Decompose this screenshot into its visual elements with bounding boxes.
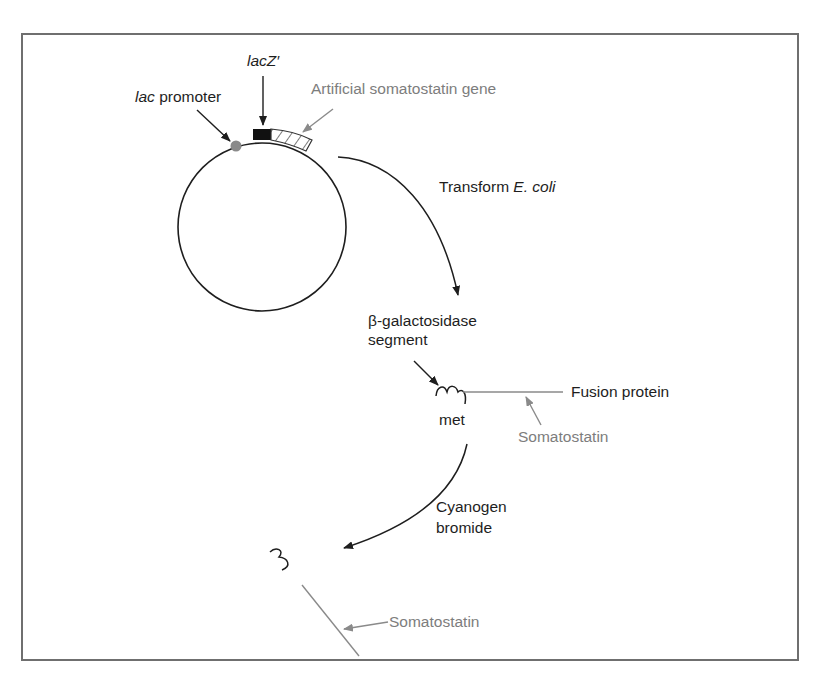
lac-promoter-label: lac promoter [135, 87, 221, 106]
lacz-rest: Z′ [267, 52, 279, 69]
segment-arrow-icon [414, 361, 438, 385]
segment-label-2: segment [368, 330, 427, 349]
segment-label-1: β-galactosidase [368, 311, 477, 330]
plasmid [178, 129, 346, 311]
beta-galactosidase-squiggle-icon [436, 386, 465, 404]
product-somatostatin-arrow-icon [344, 622, 388, 629]
cyanogen-label-2: bromide [436, 518, 492, 537]
transform-prefix: Transform [439, 178, 513, 195]
cyanogen-label-1: Cyanogen [436, 497, 507, 516]
cleaved-squiggle-icon [270, 549, 288, 570]
lacz-block-icon [253, 129, 271, 140]
gene-label: Artificial somatostatin gene [311, 79, 496, 98]
met-label: met [439, 410, 465, 429]
lac-promoter-arrow-icon [197, 110, 230, 141]
transform-organism: E. coli [513, 178, 555, 195]
lacz-label: lacZ′ [247, 51, 279, 70]
lacz-italic: lac [247, 52, 267, 69]
somatostatin-product-line [302, 585, 359, 656]
plasmid-circle [178, 143, 346, 311]
transform-label: Transform E. coli [439, 177, 556, 196]
fusion-somatostatin-label: Somatostatin [518, 427, 608, 446]
fusion-protein-label: Fusion protein [571, 382, 669, 401]
product-somatostatin-label: Somatostatin [389, 612, 479, 631]
lac-promoter-rest: promoter [155, 88, 221, 105]
gene-arrow-icon [303, 109, 333, 132]
fusion-somatostatin-arrow-icon [526, 397, 541, 425]
lac-promoter-dot-icon [231, 141, 242, 152]
lac-promoter-italic: lac [135, 88, 155, 105]
